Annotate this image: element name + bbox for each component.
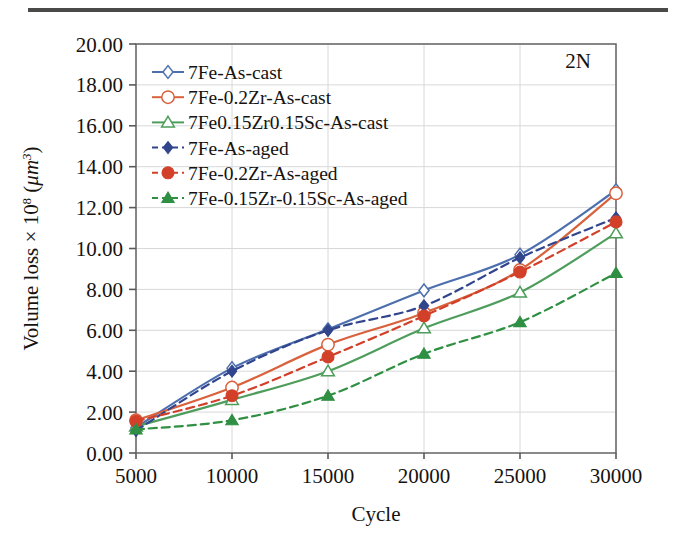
x-axis-ticks [136,453,616,459]
annotation-label-2n: 2N [565,49,591,73]
data-point-marker [322,338,334,350]
data-point-marker [322,351,334,363]
top-horizontal-rule [28,8,668,12]
y-axis-tick-labels: 0.002.004.006.008.0010.0012.0014.0016.00… [76,33,123,466]
legend-label-2: 7Fe-0.2Zr-As-cast [188,87,332,108]
y-tick-label: 4.00 [86,360,123,384]
legend-label-3: 7Fe0.15Zr0.15Sc-As-cast [188,112,389,133]
y-tick-label: 2.00 [86,401,123,425]
data-point-marker [610,216,622,228]
y-tick-label: 16.00 [76,114,123,138]
y-tick-label: 12.00 [76,196,123,220]
y-tick-label: 10.00 [76,237,123,261]
data-point-marker [226,390,238,402]
data-series-layer [130,184,623,437]
y-axis-ticks [129,44,136,453]
series-line [136,193,616,420]
data-point-marker [418,310,430,322]
series-7fe-0-2zr-as-cast [130,187,622,426]
data-point-marker [514,266,526,278]
x-tick-label: 25000 [494,464,547,488]
data-point-marker [419,284,429,297]
data-point-marker [610,187,622,199]
y-axis-title-prefix: Volume loss × 10 [19,204,43,350]
legend-label-4: 7Fe-As-aged [188,138,289,159]
y-axis-title-unit-mu: μm [19,160,43,187]
series-line [136,218,616,431]
y-axis-title-unit-open: ( [19,186,43,198]
x-tick-label: 15000 [302,464,355,488]
y-tick-label: 6.00 [86,319,123,343]
x-tick-label: 5000 [115,464,157,488]
legend-marker-5 [162,167,174,179]
series-7fe-0-2zr-as-aged [130,216,622,427]
y-tick-label: 20.00 [76,33,123,57]
x-tick-label: 10000 [206,464,259,488]
legend-label-5: 7Fe-0.2Zr-As-aged [188,163,338,184]
y-tick-label: 8.00 [86,278,123,302]
x-axis-title: Cycle [352,502,401,526]
data-point-marker [610,227,623,238]
y-tick-label: 14.00 [76,155,123,179]
data-point-marker [514,286,527,297]
legend-marker-1 [163,66,173,79]
x-axis-tick-labels: 50001000015000200002500030000 [115,464,642,488]
x-tick-label: 30000 [590,464,643,488]
data-point-marker [226,414,238,424]
data-point-marker [610,267,622,277]
legend-marker-4 [163,142,172,154]
legend-marker-2 [162,91,174,103]
series-line [136,190,616,427]
chart-annotation-2n: 2N [565,49,591,73]
y-axis-title-unit-close: ) [19,146,43,153]
y-tick-label: 0.00 [86,442,123,466]
figure-container: 0.002.004.006.008.0010.0012.0014.0016.00… [0,0,679,549]
chart-legend: 7Fe-As-cast7Fe-0.2Zr-As-cast7Fe0.15Zr0.1… [152,62,408,209]
legend-label-6: 7Fe-0.15Zr-0.15Sc-As-aged [188,188,408,209]
y-tick-label: 18.00 [76,73,123,97]
y-axis-title: Volume loss × 108 (μm3) [19,146,43,350]
volume-loss-vs-cycle-chart: 0.002.004.006.008.0010.0012.0014.0016.00… [0,0,679,549]
legend-label-1: 7Fe-As-cast [188,62,283,83]
x-tick-label: 20000 [398,464,451,488]
